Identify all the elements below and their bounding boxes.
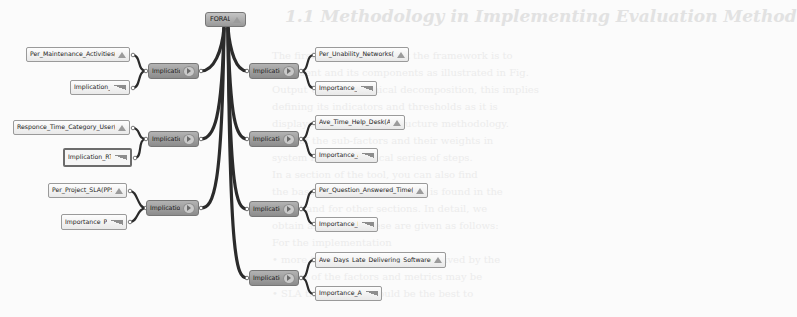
triangle-up-icon (434, 257, 442, 263)
arrow-right-icon (183, 134, 195, 145)
leaf-node-ave-time-help-desk[interactable]: Ave_Time_Help_Desk(ATHD) (315, 115, 405, 130)
connector-port (299, 137, 303, 141)
leaf-node-importance-pqat[interactable]: Importance_PQAT (315, 217, 378, 232)
implication-label: Implication4 (253, 275, 280, 281)
connector-port (199, 137, 203, 141)
root-link (201, 28, 224, 208)
leaf-node-implication-pma[interactable]: Implication_PMA (70, 80, 130, 95)
leaf-label: Importance_PPSLA (65, 219, 107, 225)
connector-port (131, 86, 135, 90)
branch-link (130, 191, 146, 208)
root-link (228, 28, 247, 71)
connector-port (199, 206, 203, 210)
ramp-icon (360, 86, 373, 91)
arrow-right-icon (183, 203, 195, 214)
connector-port (299, 276, 303, 280)
arrow-right-icon (283, 134, 295, 145)
implication-node-6[interactable]: Implication6 (148, 131, 199, 147)
branch-link (133, 128, 146, 139)
branch-link (130, 208, 146, 222)
arrow-right-icon (283, 273, 295, 284)
triangle-up-icon (118, 52, 126, 58)
arrow-right-icon (283, 204, 295, 215)
implication-label: Implication7 (152, 68, 180, 74)
triangle-up-icon (233, 17, 241, 23)
leaf-label: Per_Maintenance_Activities(PMA) (30, 51, 115, 57)
arrow-right-icon (283, 66, 295, 77)
branch-link (301, 209, 314, 224)
connector-port (199, 69, 203, 73)
branch-link (135, 139, 146, 158)
implication-node-2[interactable]: Implication2 (249, 131, 299, 147)
leaf-label: Responce_Time_Category_User(RTCU) (17, 124, 115, 130)
branch-link (301, 123, 314, 139)
triangle-up-icon (115, 188, 123, 194)
connector-port (133, 156, 137, 160)
leaf-node-importance-athd[interactable]: Importance_ATHD (315, 148, 378, 163)
leaf-node-per-question-answered-time[interactable]: Per_Question_Answered_Time(PQAT) (315, 183, 428, 198)
connector-port (128, 189, 132, 193)
leaf-node-per-project-sla[interactable]: Per_Project_SLA(PPSLA) (48, 183, 127, 198)
leaf-label: Ave_Time_Help_Desk(ATHD) (319, 119, 390, 125)
leaf-label: Importance_RUN (319, 85, 357, 91)
arrow-right-icon (183, 66, 195, 77)
leaf-label: Ave_Days_Late_Delivering_Software(ADLDS) (319, 257, 431, 263)
implication-node-3[interactable]: Implication3 (249, 201, 299, 217)
implication-label: Implication2 (253, 136, 280, 142)
branch-link (301, 55, 314, 71)
ramp-icon (110, 220, 123, 225)
implication-label: Implication5 (150, 205, 180, 211)
leaf-node-ave-days-late-delivering-software[interactable]: Ave_Days_Late_Delivering_Software(ADLDS) (315, 252, 446, 268)
branch-link (301, 278, 314, 294)
triangle-up-icon (397, 52, 405, 58)
leaf-label: Implication_PMA (74, 84, 110, 90)
leaf-label: Per_Unability_Networks(RUN) (319, 51, 394, 57)
implication-node-1[interactable]: Implication1 (249, 63, 299, 79)
ramp-icon (113, 85, 126, 90)
implication-node-4[interactable]: Implication4 (249, 270, 299, 286)
implication-label: Implication3 (253, 206, 280, 212)
leaf-node-implication-rtcu[interactable]: Implication_RTCU (63, 148, 132, 167)
leaf-node-importance-run[interactable]: Importance_RUN (315, 81, 377, 96)
triangle-up-icon (118, 125, 126, 131)
root-node-forall[interactable]: FORALL (205, 12, 246, 27)
branch-link (133, 55, 146, 71)
branch-link (301, 260, 314, 278)
leaf-node-responce-time-category-user[interactable]: Responce_Time_Category_User(RTCU) (13, 120, 130, 135)
triangle-up-icon (416, 188, 424, 194)
ramp-icon (114, 155, 127, 160)
leaf-node-per-maintenance-activities[interactable]: Per_Maintenance_Activities(PMA) (26, 47, 130, 62)
ramp-icon (365, 291, 378, 296)
branch-link (301, 139, 314, 156)
leaf-label: Importance_ATHD (319, 152, 358, 158)
implication-label: Implication6 (152, 136, 180, 142)
leaf-node-per-unability-networks[interactable]: Per_Unability_Networks(RUN) (315, 47, 409, 62)
connector-port (131, 126, 135, 130)
connector-port (128, 220, 132, 224)
ramp-icon (361, 153, 374, 158)
leaf-label: Per_Project_SLA(PPSLA) (52, 187, 112, 193)
root-link (201, 28, 224, 71)
leaf-label: Implication_RTCU (68, 154, 111, 160)
root-node-label: FORALL (210, 16, 230, 23)
leaf-label: Importance_ADLDS (319, 290, 362, 296)
triangle-up-icon (393, 120, 401, 126)
implication-node-7[interactable]: Implication7 (148, 63, 199, 79)
ramp-icon (361, 222, 374, 227)
leaf-node-importance-adlds[interactable]: Importance_ADLDS (315, 286, 382, 301)
connector-port (299, 69, 303, 73)
implication-node-5[interactable]: Implication5 (146, 200, 199, 216)
leaf-label: Importance_PQAT (319, 221, 358, 227)
connector-port (131, 53, 135, 57)
branch-link (301, 191, 314, 209)
leaf-node-importance-ppsla[interactable]: Importance_PPSLA (61, 214, 127, 230)
implication-label: Implication1 (253, 68, 280, 74)
connector-port (299, 207, 303, 211)
branch-link (133, 71, 146, 88)
branch-link (301, 71, 314, 88)
leaf-label: Per_Question_Answered_Time(PQAT) (319, 187, 413, 193)
